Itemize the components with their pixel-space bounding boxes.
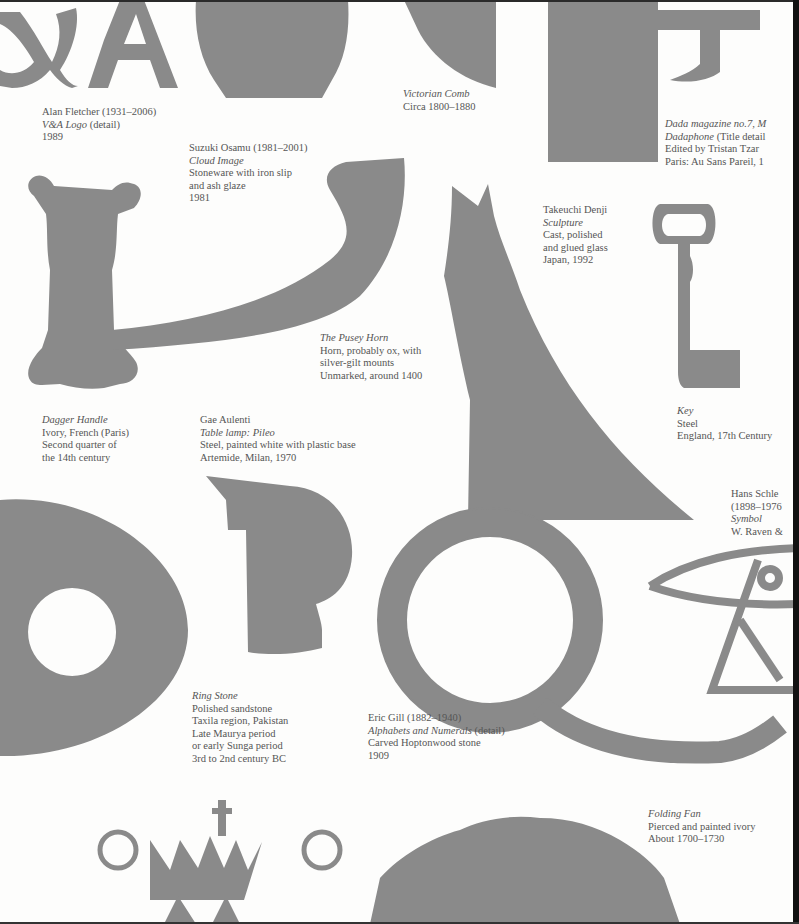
pileo-lamp-shape bbox=[206, 476, 352, 654]
caption-victorian-comb: Victorian Comb Circa 1800–1880 bbox=[403, 88, 476, 113]
cloud-image-vessel-shape bbox=[196, 0, 349, 98]
vanda-logo-shape bbox=[0, 0, 178, 88]
ring-stone-shape bbox=[0, 499, 188, 756]
scan-edge-top bbox=[0, 0, 799, 2]
caption-symbol: Hans Schle (1898–1976 Symbol W. Raven & bbox=[731, 488, 783, 538]
caption-ring-stone: Ring Stone Polished sandstone Taxila reg… bbox=[192, 690, 288, 766]
dada-letter-t-shape bbox=[658, 10, 760, 82]
caption-cloud-image: Suzuki Osamu (1981–2001) Cloud Image Sto… bbox=[189, 142, 307, 205]
victorian-comb-shape bbox=[404, 0, 496, 88]
scan-edge-right bbox=[793, 0, 799, 924]
caption-pusey-horn: The Pusey Horn Horn, probably ox, with s… bbox=[320, 332, 422, 382]
caption-dada-magazine: Dada magazine no.7, M Dadaphone (Title d… bbox=[665, 118, 766, 168]
caption-folding-fan: Folding Fan Pierced and painted ivory Ab… bbox=[648, 808, 756, 846]
folding-fan-shape bbox=[370, 817, 680, 924]
dagger-handle-shape bbox=[28, 175, 141, 388]
caption-dagger-handle: Dagger Handle Ivory, French (Paris) Seco… bbox=[42, 414, 129, 464]
dada-letter-d-shape bbox=[548, 0, 658, 162]
royal-crown-w-shape bbox=[100, 800, 340, 924]
bird-symbol-shape bbox=[650, 548, 799, 690]
caption-pileo-lamp: Gae Aulenti Table lamp: Pileo Steel, pai… bbox=[200, 414, 356, 464]
caption-gill-alphabets: Eric Gill (1882–1940) Alphabets and Nume… bbox=[368, 712, 505, 762]
catalogue-page: Alan Fletcher (1931–2006) V&A Logo (deta… bbox=[0, 0, 799, 924]
caption-vanda-logo: Alan Fletcher (1931–2006) V&A Logo (deta… bbox=[42, 106, 156, 144]
key-shape bbox=[653, 204, 741, 388]
caption-glass-sculpture: Takeuchi Denji Sculpture Cast, polished … bbox=[543, 204, 608, 267]
caption-key: Key Steel England, 17th Century bbox=[677, 405, 772, 443]
